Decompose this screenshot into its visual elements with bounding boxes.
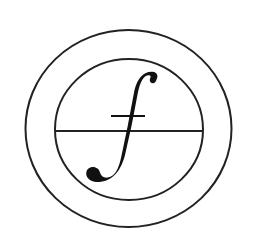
f-logo-graphic (0, 0, 256, 244)
f-logo: f (0, 0, 256, 244)
background (0, 0, 256, 244)
